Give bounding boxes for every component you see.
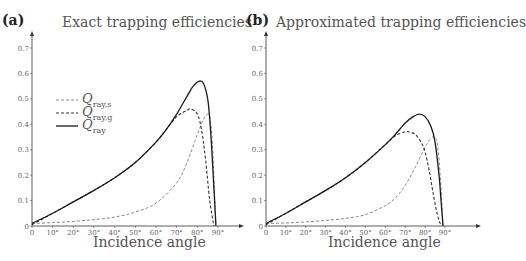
- panel-b-title: Approximated trapping efficiencies: [276, 14, 526, 30]
- x-tick-label: 0: [30, 229, 34, 237]
- x-tick-label: 20°: [300, 229, 312, 237]
- panel-a-xlabel: Incidence angle: [93, 234, 206, 250]
- series-q-ray: [32, 81, 216, 226]
- series-q-ray-s: [266, 137, 443, 226]
- y-tick-label: 0.4: [252, 121, 264, 129]
- x-axis-arrow-icon: [476, 224, 481, 228]
- x-tick-label: 0: [264, 229, 268, 237]
- y-tick-label: 0.3: [18, 146, 29, 154]
- y-axis-arrow-icon: [30, 31, 34, 36]
- y-tick-label: 0.6: [252, 70, 264, 78]
- panel-a-title: Exact trapping efficiencies: [62, 14, 252, 30]
- y-tick-label: 0: [259, 223, 263, 231]
- legend-subscript: ray: [93, 126, 106, 135]
- x-tick-label: 10°: [280, 229, 292, 237]
- y-tick-label: 0.1: [252, 197, 263, 205]
- chart-a-plot: 010°20°30°40°50°60°70°80°90°00.10.20.30.…: [0, 0, 244, 261]
- legend-item-qray: Qray: [82, 117, 106, 135]
- chart-b-plot: 010°20°30°40°50°60°70°80°90°00.10.20.30.…: [244, 0, 488, 261]
- y-axis-arrow-icon: [264, 31, 268, 36]
- y-tick-label: 0: [25, 223, 29, 231]
- y-tick-label: 0.2: [252, 172, 263, 180]
- y-tick-label: 0.3: [252, 146, 263, 154]
- y-tick-label: 0.5: [18, 95, 29, 103]
- y-tick-label: 0.7: [252, 45, 263, 53]
- x-tick-label: 90°: [212, 229, 224, 237]
- series-q-ray-g: [266, 132, 441, 226]
- panel-b-label: (b): [246, 12, 269, 28]
- x-tick-label: 20°: [67, 229, 79, 237]
- series-q-ray: [266, 114, 443, 226]
- legend-symbol: Q: [82, 117, 93, 132]
- panel-a-label: (a): [2, 12, 24, 28]
- panel-b-xlabel: Incidence angle: [328, 234, 441, 250]
- panel-a: 010°20°30°40°50°60°70°80°90°00.10.20.30.…: [0, 0, 244, 261]
- y-tick-label: 0.1: [18, 197, 29, 205]
- y-tick-label: 0.4: [18, 121, 30, 129]
- y-tick-label: 0.7: [18, 45, 29, 53]
- panel-b: 010°20°30°40°50°60°70°80°90°00.10.20.30.…: [244, 0, 488, 261]
- y-tick-label: 0.2: [18, 172, 29, 180]
- y-tick-label: 0.6: [18, 70, 30, 78]
- y-tick-label: 0.5: [252, 95, 263, 103]
- x-tick-label: 10°: [46, 229, 58, 237]
